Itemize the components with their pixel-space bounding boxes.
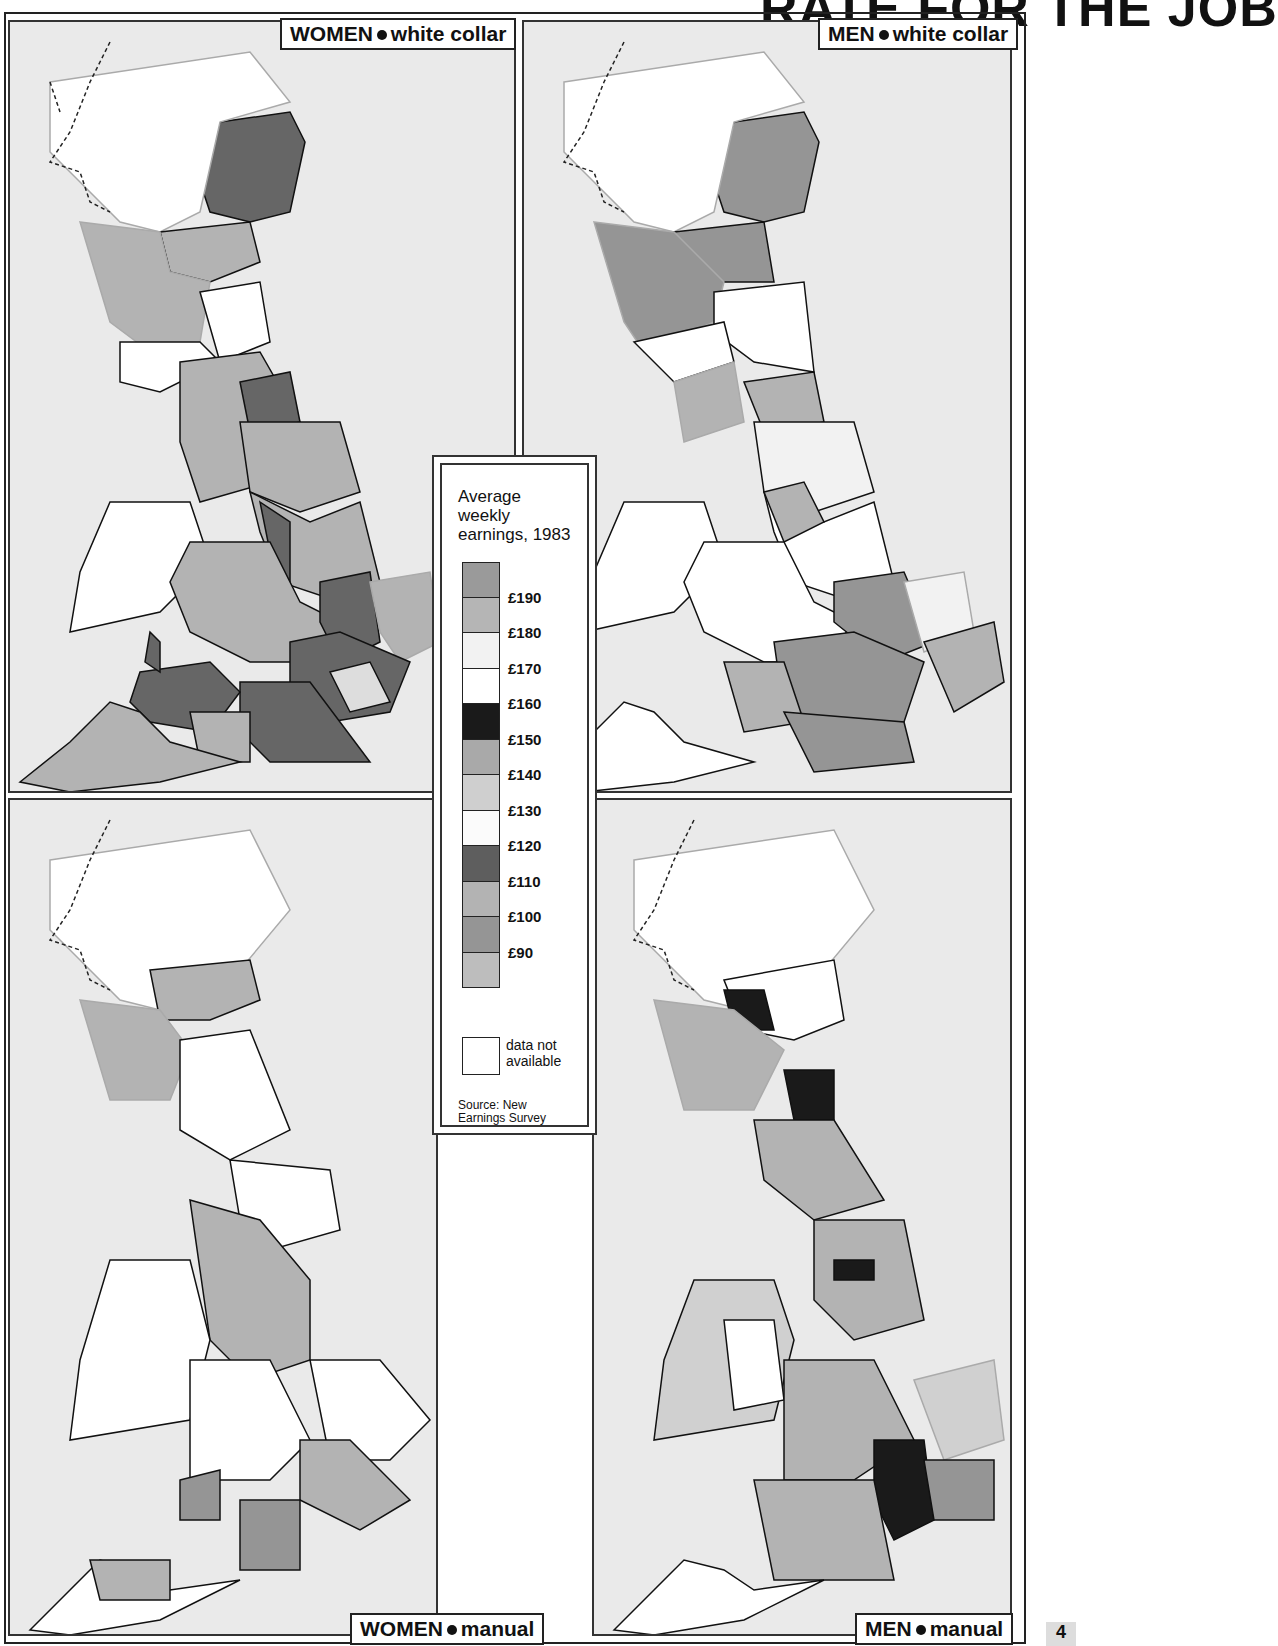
legend-title: Average weekly earnings, 1983 xyxy=(458,487,570,544)
panel-group: WOMEN xyxy=(290,22,373,45)
panel-group: WOMEN xyxy=(360,1617,443,1640)
legend-swatch xyxy=(462,953,500,989)
legend-tick-label: £120 xyxy=(508,837,541,854)
legend-swatch xyxy=(462,740,500,776)
legend-swatch xyxy=(462,562,500,598)
map-legend: Average weekly earnings, 1983 £190£180£1… xyxy=(432,455,597,1135)
uk-map-women-manual xyxy=(10,800,438,1636)
panel-group: MEN xyxy=(828,22,875,45)
legend-tick-label: £130 xyxy=(508,802,541,819)
legend-swatch xyxy=(462,811,500,847)
panel-label-women-manual: WOMENmanual xyxy=(350,1613,544,1645)
legend-swatch xyxy=(462,669,500,705)
no-data-label-line: available xyxy=(506,1053,561,1069)
legend-tick-label: £100 xyxy=(508,908,541,925)
panel-group: MEN xyxy=(865,1617,912,1640)
panel-type: white collar xyxy=(893,22,1009,45)
bullet-icon xyxy=(377,30,387,40)
source-line: Earnings Survey xyxy=(458,1112,546,1125)
uk-map-men-white-collar xyxy=(524,22,1012,793)
bullet-icon xyxy=(879,30,889,40)
no-data-label-line: data not xyxy=(506,1037,561,1053)
panel-label-men-manual: MENmanual xyxy=(855,1613,1013,1645)
bullet-icon xyxy=(447,1625,457,1635)
uk-map-men-manual xyxy=(594,800,1012,1636)
legend-swatch xyxy=(462,846,500,882)
legend-color-scale xyxy=(462,562,500,988)
legend-title-line: Average xyxy=(458,487,570,506)
map-panel-women-manual xyxy=(8,798,438,1636)
legend-swatch xyxy=(462,775,500,811)
legend-tick-label: £110 xyxy=(508,873,541,890)
legend-tick-label: £170 xyxy=(508,660,541,677)
no-data-label: data not available xyxy=(506,1037,561,1069)
legend-swatch xyxy=(462,633,500,669)
panel-label-men-white-collar: MENwhite collar xyxy=(818,18,1018,50)
panel-label-women-white-collar: WOMENwhite collar xyxy=(280,18,516,50)
legend-swatch xyxy=(462,917,500,953)
legend-tick-label: £150 xyxy=(508,731,541,748)
source-note: Source: New Earnings Survey xyxy=(458,1099,546,1125)
legend-title-line: weekly xyxy=(458,506,570,525)
legend-swatch xyxy=(462,598,500,634)
panel-type: manual xyxy=(461,1617,535,1640)
no-data-swatch xyxy=(462,1037,500,1075)
legend-swatch xyxy=(462,704,500,740)
legend-tick-label: £90 xyxy=(508,944,533,961)
bullet-icon xyxy=(916,1625,926,1635)
legend-tick-label: £160 xyxy=(508,695,541,712)
legend-tick-label: £180 xyxy=(508,624,541,641)
panel-type: white collar xyxy=(391,22,507,45)
legend-title-line: earnings, 1983 xyxy=(458,525,570,544)
panel-type: manual xyxy=(930,1617,1004,1640)
page-number: 4 xyxy=(1046,1622,1076,1646)
legend-tick-label: £190 xyxy=(508,589,541,606)
legend-tick-label: £140 xyxy=(508,766,541,783)
map-panel-men-manual xyxy=(592,798,1012,1636)
legend-frame: Average weekly earnings, 1983 £190£180£1… xyxy=(440,463,589,1127)
legend-swatch xyxy=(462,882,500,918)
